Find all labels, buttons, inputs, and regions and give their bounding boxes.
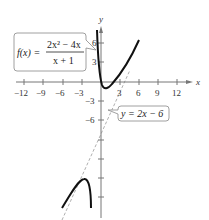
y-tick-label: 3	[92, 57, 97, 67]
function-callout-numerator: 2x² − 4x	[47, 39, 81, 50]
y-tick-label: −3	[85, 96, 95, 106]
x-axis	[16, 79, 193, 85]
function-callout-denominator: x + 1	[53, 55, 74, 66]
x-axis-arrow-icon	[186, 80, 193, 84]
x-tick-label: −3	[74, 88, 84, 98]
function-upper-branch	[97, 30, 139, 88]
x-tick-label: −6	[55, 88, 65, 98]
y-tick-label: −6	[85, 115, 95, 125]
chart-canvas: x y −12 −9 −6 −3 3 6 9 12 6 3 −3 −6 f(x)…	[0, 0, 209, 220]
asymptote-callout-label: y = 2x − 6	[120, 108, 163, 119]
y-axis-arrow-icon	[99, 26, 103, 33]
x-tick-label: −12	[14, 88, 28, 98]
x-axis-name: x	[195, 77, 200, 87]
function-lower-branch	[62, 179, 91, 208]
y-axis-name: y	[98, 14, 103, 24]
x-tick-label: 3	[117, 88, 122, 98]
function-callout: f(x) = 2x² − 4x x + 1	[14, 33, 96, 71]
x-tick-label: 12	[172, 88, 181, 98]
x-tick-label: 6	[136, 88, 141, 98]
x-tick-label: 9	[155, 88, 160, 98]
asymptote-callout: y = 2x − 6	[108, 106, 169, 121]
x-tick-label: −9	[36, 88, 46, 98]
function-callout-prefix: f(x) =	[17, 47, 40, 59]
